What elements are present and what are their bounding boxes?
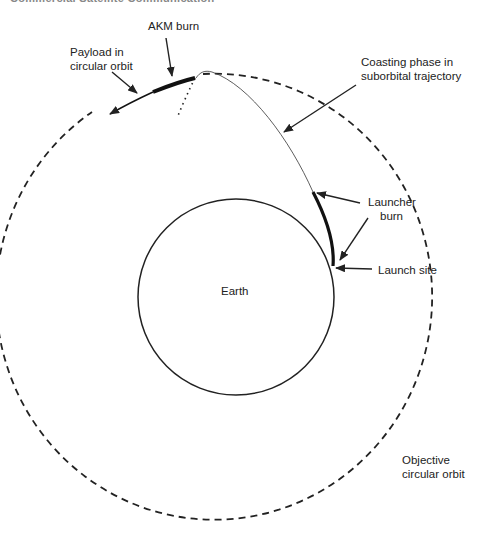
- launcher-callout-arrow-bottom: [340, 218, 368, 260]
- launcher-label-line2: burn: [380, 209, 403, 223]
- payload-label-line1: Payload in: [70, 45, 124, 59]
- objective-orbit: [0, 74, 432, 520]
- objective-label-line1: Objective: [402, 453, 450, 467]
- launcher-label-line1: Launcher: [368, 195, 416, 209]
- payload-label-line2: circular orbit: [70, 59, 133, 73]
- launcher-callout-arrow-top: [317, 193, 360, 203]
- akm-burn-label: AKM burn: [148, 19, 199, 33]
- payload-callout-arrow: [112, 72, 137, 93]
- earth-label: Earth: [221, 284, 249, 298]
- objective-label-line2: circular orbit: [402, 467, 465, 481]
- akm-callout-arrow: [166, 38, 172, 76]
- launcher-burn-path: [313, 192, 333, 266]
- akm-burn-path: [153, 78, 195, 92]
- payload-orbit-arrow: [110, 92, 153, 114]
- launch-site-label: Launch site: [378, 263, 437, 277]
- coasting-label-line1: Coasting phase in: [361, 55, 453, 69]
- launch-site-callout-arrow: [336, 268, 372, 269]
- coasting-trajectory: [196, 71, 313, 192]
- coasting-callout-arrow: [284, 85, 356, 132]
- coasting-label-line2: suborbital trajectory: [361, 69, 461, 83]
